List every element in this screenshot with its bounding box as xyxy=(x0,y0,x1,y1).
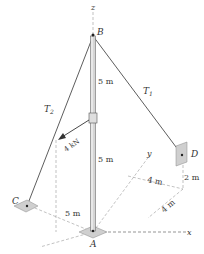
y-axis-line xyxy=(93,155,150,232)
statics-diagram: z B 5 m 5 m T2 T1 4 kN C D A 5 m 4 m 2 m… xyxy=(0,0,204,254)
y-axis-label: y xyxy=(146,149,152,158)
point-b-dot xyxy=(92,34,95,37)
point-c-label: C xyxy=(12,196,19,206)
x-axis-label: x xyxy=(187,228,192,237)
t2-label: T2 xyxy=(44,104,54,115)
d-height-dim: 2 m xyxy=(184,173,200,182)
arrowhead-icon xyxy=(58,133,66,140)
point-b-label: B xyxy=(96,27,104,37)
d-y-offset-dim: 4 m xyxy=(147,175,164,187)
force-arrow xyxy=(58,120,89,140)
z-axis-label: z xyxy=(90,3,96,12)
anchor-d xyxy=(181,154,183,156)
point-a-dot xyxy=(92,230,95,233)
lower-pole-dim: 5 m xyxy=(98,155,114,164)
t1-label: T1 xyxy=(143,86,153,97)
d-x-offset-dim: 4 m xyxy=(160,198,178,215)
pole-cable-figure: z B 5 m 5 m T2 T1 4 kN C D A 5 m 4 m 2 m… xyxy=(0,0,204,254)
c-offset-dim: 5 m xyxy=(65,209,81,218)
point-a-label: A xyxy=(89,239,97,249)
cable-t2 xyxy=(27,36,93,206)
point-d-label: D xyxy=(190,149,198,159)
collar xyxy=(89,113,97,123)
upper-pole-dim: 5 m xyxy=(98,77,114,86)
c-to-a-line xyxy=(30,206,93,232)
anchor-c xyxy=(26,205,28,207)
cable-t1 xyxy=(93,36,182,155)
force-label: 4 kN xyxy=(63,137,82,153)
pole xyxy=(91,36,96,231)
